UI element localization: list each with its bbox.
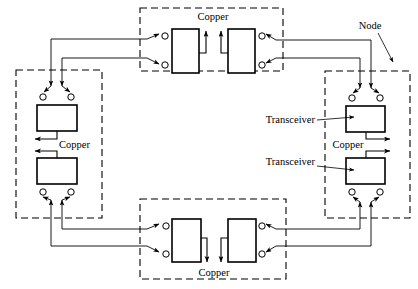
stub-top-out-upper <box>266 34 276 40</box>
stub-right-out-b <box>371 197 379 202</box>
network-diagram-canvas: Copper Copper Copper Copper <box>0 0 418 289</box>
link-top-to-right-a <box>276 40 371 88</box>
stub-right-out-a <box>353 197 360 202</box>
stub-left-out-b <box>62 197 70 200</box>
connector-bottom-out-lower <box>259 251 265 257</box>
link-bottom-to-left-b <box>51 200 147 246</box>
copper-link-bottom-left <box>201 238 207 262</box>
stub-right-in-b <box>371 88 379 93</box>
node-label: Node <box>359 20 382 31</box>
copper-link-right-lower <box>366 151 390 158</box>
stub-top-in-upper <box>147 34 159 39</box>
copper-label-top: Copper <box>198 11 229 22</box>
connector-left-out-a <box>40 189 46 195</box>
link-bottom-to-left-a <box>62 200 147 229</box>
connector-right-in-a <box>349 95 355 101</box>
copper-link-right-upper <box>366 132 390 139</box>
transceiver-upper-label: Transceiver <box>266 114 316 125</box>
stub-left-out-a <box>43 197 51 200</box>
stub-bottom-in-lower <box>147 246 159 252</box>
copper-label-bottom: Copper <box>199 267 230 278</box>
stub-right-in-a <box>353 88 360 93</box>
connector-right-in-b <box>377 95 383 101</box>
connector-left-out-b <box>68 189 74 195</box>
node-leader-line <box>378 33 393 62</box>
connector-top-in-lower <box>162 62 168 68</box>
connector-right-out-b <box>377 189 383 195</box>
topology-svg: Copper Copper Copper Copper <box>0 0 418 289</box>
connector-top-out-lower <box>259 62 265 68</box>
stub-bottom-out-lower <box>266 246 276 252</box>
transceiver-left-lower <box>37 158 77 184</box>
stub-bottom-in-upper <box>147 224 159 229</box>
stub-top-out-lower <box>266 58 276 63</box>
transceiver-bottom-left <box>172 219 201 262</box>
copper-label-left: Copper <box>59 139 90 150</box>
transceiver-right-upper <box>346 106 385 132</box>
connector-top-in-upper <box>162 33 168 39</box>
copper-link-top-right <box>221 31 228 53</box>
transceiver-right-lower <box>346 158 385 184</box>
transceiver-left-upper <box>37 105 77 131</box>
link-right-to-bottom-a <box>276 202 360 229</box>
link-top-to-right-b <box>276 58 360 88</box>
link-left-to-top-b <box>62 58 147 86</box>
connector-bottom-in-upper <box>163 223 169 229</box>
stub-left-in-b <box>62 86 70 92</box>
stub-bottom-out-upper <box>266 224 276 229</box>
transceiver-top-right <box>228 29 255 73</box>
connector-right-out-a <box>349 189 355 195</box>
transceiver-bottom-right <box>228 219 256 262</box>
connector-left-in-b <box>68 94 74 100</box>
stub-left-in-a <box>44 86 51 92</box>
copper-link-left-upper <box>35 131 57 139</box>
copper-link-bottom-right <box>221 238 228 262</box>
copper-link-top-left <box>199 31 206 53</box>
copper-link-left-lower <box>35 151 57 158</box>
link-right-to-bottom-b <box>276 202 371 246</box>
link-left-to-top-a <box>51 39 147 86</box>
transceiver-lower-label: Transceiver <box>266 156 316 167</box>
connector-left-in-a <box>40 94 46 100</box>
connector-top-out-upper <box>259 33 265 39</box>
copper-label-right: Copper <box>333 139 364 150</box>
connector-bottom-in-lower <box>163 251 169 257</box>
stub-top-in-lower <box>147 58 159 64</box>
transceiver-top-left <box>172 29 199 73</box>
connector-bottom-out-upper <box>259 223 265 229</box>
